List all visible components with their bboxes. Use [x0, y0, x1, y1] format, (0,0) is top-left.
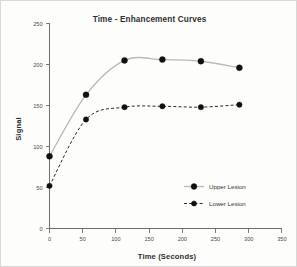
legend-marker-lower — [191, 201, 196, 206]
x-tick-label-250: 250 — [211, 236, 220, 242]
x-tick-label-350: 350 — [277, 236, 286, 242]
data-point-lower-lesion-3[interactable] — [160, 104, 165, 109]
y-tick-label-150: 150 — [33, 103, 42, 109]
y-tick-label-250: 250 — [33, 21, 42, 27]
y-tick-label-0: 0 — [39, 226, 42, 232]
legend-label-lower-lesion: Lower Lesion — [209, 200, 246, 207]
x-tick-label-50: 50 — [80, 236, 86, 242]
legend-entry-upper-lesion[interactable]: Upper Lesion — [184, 183, 246, 190]
data-point-lower-lesion-5[interactable] — [237, 102, 242, 107]
y-tick-label-100: 100 — [33, 144, 42, 150]
x-tick-label-200: 200 — [178, 236, 187, 242]
data-point-upper-lesion-3[interactable] — [159, 57, 165, 63]
data-point-lower-lesion-1[interactable] — [83, 117, 88, 122]
data-series-layer — [47, 57, 243, 189]
data-point-upper-lesion-4[interactable] — [198, 58, 204, 64]
time-enhancement-curves-chart: Time - Enhancement Curves Signal Time (S… — [1, 1, 297, 267]
legend-entry-lower-lesion[interactable]: Lower Lesion — [184, 200, 246, 207]
x-axis-ticks: 0 50 100 150 200 250 300 350 — [48, 229, 287, 243]
chart-legend: Upper Lesion Lower Lesion — [184, 183, 246, 207]
x-tick-label-100: 100 — [111, 236, 120, 242]
y-axis-ticks: 0 50 100 150 200 250 — [33, 21, 49, 232]
x-axis-label: Time (Seconds) — [138, 252, 197, 261]
y-tick-label-200: 200 — [33, 62, 42, 68]
x-tick-label-300: 300 — [244, 236, 253, 242]
y-tick-label-50: 50 — [36, 185, 42, 191]
chart-title: Time - Enhancement Curves — [93, 15, 207, 24]
data-point-upper-lesion-2[interactable] — [122, 57, 128, 63]
x-tick-label-150: 150 — [144, 236, 153, 242]
series-line-lower-lesion — [50, 105, 240, 186]
data-point-upper-lesion-0[interactable] — [47, 153, 53, 159]
data-point-upper-lesion-5[interactable] — [236, 65, 242, 71]
chart-screenshot: Time - Enhancement Curves Signal Time (S… — [0, 0, 297, 267]
data-point-lower-lesion-0[interactable] — [47, 183, 52, 188]
legend-marker-upper — [191, 184, 197, 190]
data-point-lower-lesion-2[interactable] — [122, 104, 127, 109]
data-point-lower-lesion-4[interactable] — [198, 104, 203, 109]
x-tick-label-0: 0 — [48, 236, 51, 242]
data-point-upper-lesion-1[interactable] — [83, 92, 89, 98]
y-axis-label: Signal — [14, 117, 23, 141]
legend-label-upper-lesion: Upper Lesion — [209, 183, 246, 190]
